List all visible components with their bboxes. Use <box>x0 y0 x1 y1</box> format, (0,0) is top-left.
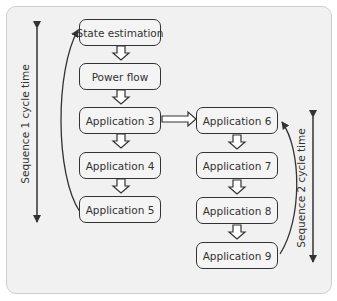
box-application-4: Application 4 <box>79 152 161 179</box>
box-application-7: Application 7 <box>196 152 278 179</box>
flow-arrow-se-to-pf <box>113 46 129 60</box>
sequence2-label: Sequence 2 cycle time <box>295 128 307 248</box>
box-state-estimation: State estimation <box>79 19 161 46</box>
flow-arrow-app7-to-app8 <box>229 180 245 194</box>
box-application-9: Application 9 <box>196 242 278 269</box>
connectors <box>0 0 337 301</box>
box-application-3: Application 3 <box>79 107 161 134</box>
flow-arrow-pf-to-app3 <box>113 90 129 104</box>
flow-arrow-app4-to-app5 <box>113 179 129 193</box>
box-application-5: Application 5 <box>79 196 161 223</box>
box-application-8: Application 8 <box>196 197 278 224</box>
flow-arrow-app3-to-app4 <box>113 134 129 148</box>
box-power-flow: Power flow <box>79 63 161 90</box>
box-application-6: Application 6 <box>196 107 278 134</box>
flow-arrow-app6-to-app7 <box>229 135 245 149</box>
sequence1-label: Sequence 1 cycle time <box>19 64 31 184</box>
flow-arrow-app8-to-app9 <box>229 225 245 239</box>
sequence1-loop-arrow <box>61 30 80 212</box>
flow-arrow-app3-to-app6 <box>162 112 196 126</box>
